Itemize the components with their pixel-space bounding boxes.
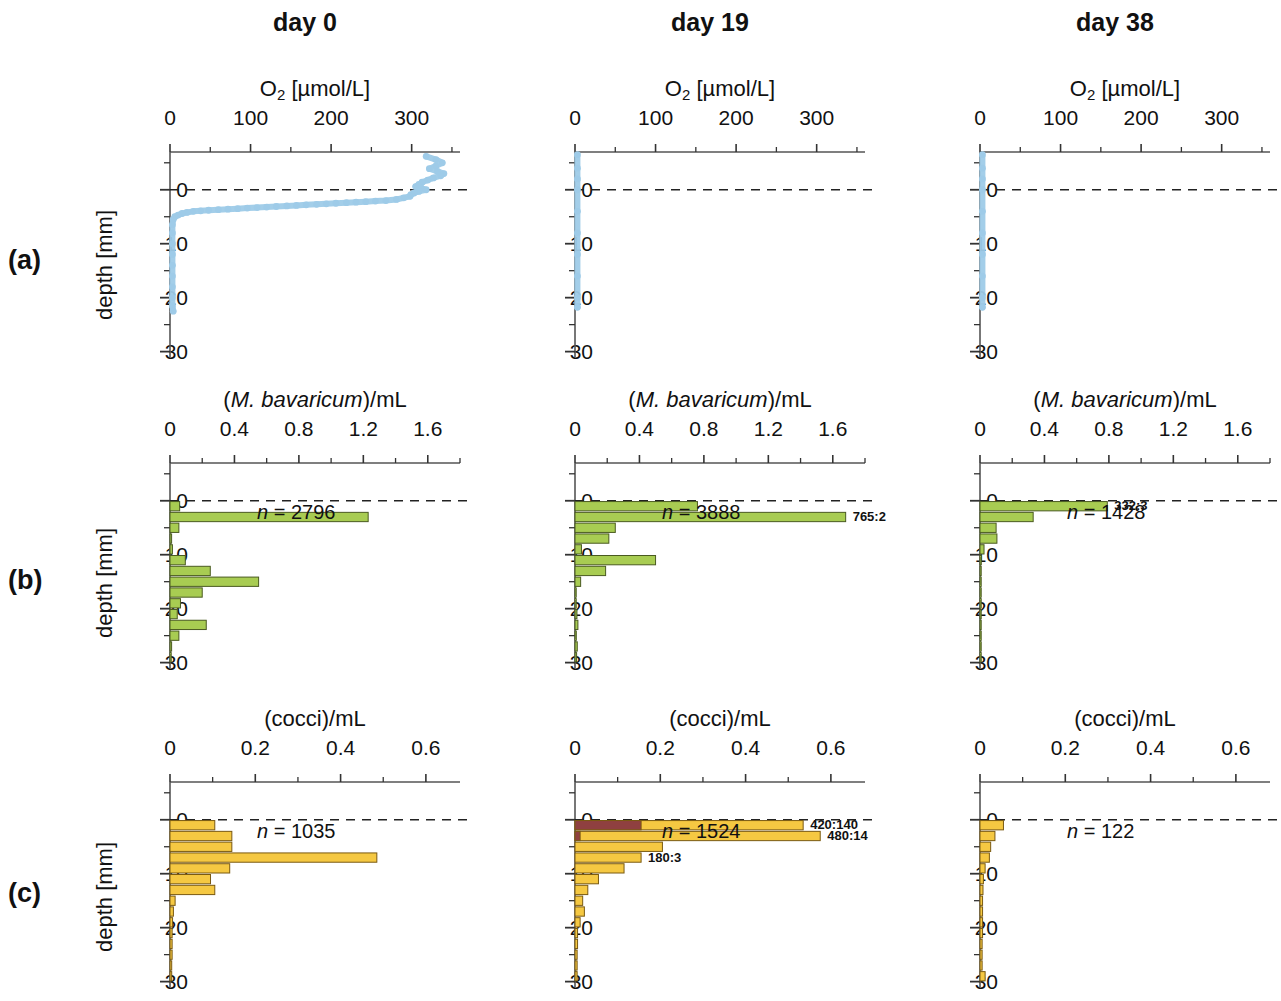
xtick-c-day38-2: 0.4 [1136, 736, 1165, 760]
plot-b-day19 [515, 445, 905, 720]
xtick-c-day0-1: 0.2 [241, 736, 270, 760]
plot-a-day38 [920, 134, 1281, 409]
plot-c-day19 [515, 764, 905, 1001]
xtick-c-day19-2: 0.4 [731, 736, 760, 760]
x-axis-title-c-day38: (cocci)/mL [975, 706, 1275, 732]
xtick-a-day0-3: 300 [394, 106, 429, 130]
xtick-b-day19-3: 1.2 [754, 417, 783, 441]
xtick-a-day38-0: 0 [974, 106, 986, 130]
plot-b-day38 [920, 445, 1281, 720]
x-axis-title-a-day19: O2 [µmol/L] [570, 76, 870, 103]
sample-count-b-day38: n = 1428 [1067, 501, 1145, 524]
xtick-b-day0-3: 1.2 [349, 417, 378, 441]
column-title-day0: day 0 [185, 8, 425, 37]
xtick-c-day0-3: 0.6 [411, 736, 440, 760]
xtick-a-day38-1: 100 [1043, 106, 1078, 130]
x-axis-title-b-day19: (M. bavaricum)/mL [570, 387, 870, 413]
xtick-a-day19-1: 100 [638, 106, 673, 130]
xtick-b-day38-1: 0.4 [1030, 417, 1059, 441]
xtick-a-day38-2: 200 [1124, 106, 1159, 130]
sample-count-b-day0: n = 2796 [257, 501, 335, 524]
xtick-b-day38-2: 0.8 [1094, 417, 1123, 441]
xtick-b-day0-0: 0 [164, 417, 176, 441]
xtick-a-day19-2: 200 [719, 106, 754, 130]
sample-count-c-day0: n = 1035 [257, 820, 335, 843]
xtick-c-day38-0: 0 [974, 736, 986, 760]
xtick-b-day19-0: 0 [569, 417, 581, 441]
sample-count-c-day38: n = 122 [1067, 820, 1134, 843]
plot-c-day38 [920, 764, 1281, 1001]
xtick-b-day19-2: 0.8 [689, 417, 718, 441]
xtick-b-day19-1: 0.4 [625, 417, 654, 441]
x-axis-title-a-day38: O2 [µmol/L] [975, 76, 1275, 103]
panel-letter-2: (c) [8, 878, 41, 909]
xtick-c-day0-0: 0 [164, 736, 176, 760]
x-axis-title-b-day0: (M. bavaricum)/mL [165, 387, 465, 413]
xtick-a-day0-1: 100 [233, 106, 268, 130]
xtick-c-day19-3: 0.6 [816, 736, 845, 760]
xtick-c-day0-2: 0.4 [326, 736, 355, 760]
xtick-b-day0-1: 0.4 [220, 417, 249, 441]
xtick-a-day19-3: 300 [799, 106, 834, 130]
xtick-b-day19-4: 1.6 [818, 417, 847, 441]
xtick-c-day38-1: 0.2 [1051, 736, 1080, 760]
xtick-c-day38-3: 0.6 [1221, 736, 1250, 760]
column-title-day38: day 38 [995, 8, 1235, 37]
x-axis-title-a-day0: O2 [µmol/L] [165, 76, 465, 103]
plot-a-day19 [515, 134, 905, 409]
xtick-a-day38-3: 300 [1204, 106, 1239, 130]
plot-c-day0 [110, 764, 500, 1001]
panel-letter-0: (a) [8, 245, 41, 276]
xtick-a-day19-0: 0 [569, 106, 581, 130]
plot-b-day0 [110, 445, 500, 720]
x-axis-title-c-day19: (cocci)/mL [570, 706, 870, 732]
sample-count-c-day19: n = 1524 [662, 820, 740, 843]
xtick-b-day38-0: 0 [974, 417, 986, 441]
xtick-c-day19-0: 0 [569, 736, 581, 760]
xtick-b-day0-2: 0.8 [284, 417, 313, 441]
panel-letter-1: (b) [8, 565, 42, 596]
xtick-c-day19-1: 0.2 [646, 736, 675, 760]
x-axis-title-c-day0: (cocci)/mL [165, 706, 465, 732]
xtick-b-day0-4: 1.6 [413, 417, 442, 441]
column-title-day19: day 19 [590, 8, 830, 37]
x-axis-title-b-day38: (M. bavaricum)/mL [975, 387, 1275, 413]
xtick-b-day38-3: 1.2 [1159, 417, 1188, 441]
plot-a-day0 [110, 134, 500, 409]
sample-count-b-day19: n = 3888 [662, 501, 740, 524]
xtick-a-day0-0: 0 [164, 106, 176, 130]
xtick-b-day38-4: 1.6 [1223, 417, 1252, 441]
xtick-a-day0-2: 200 [314, 106, 349, 130]
